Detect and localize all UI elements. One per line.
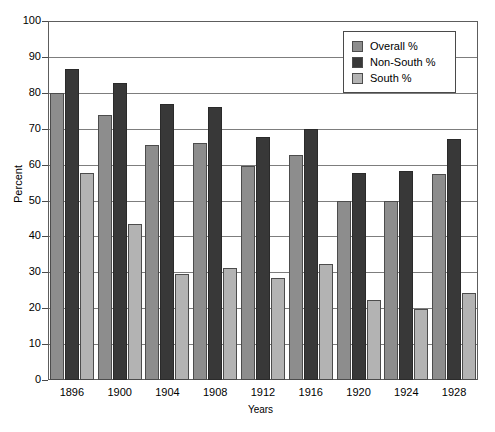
bar [208,107,222,380]
y-axis-label: 60 [3,159,41,170]
bar [256,137,270,380]
bar [50,93,64,380]
bar-group [98,21,142,380]
y-axis-label: 30 [3,266,41,277]
bar-group [193,21,237,380]
legend-swatch-icon [352,73,363,84]
chart-legend: Overall %Non-South %South % [343,31,456,93]
bar [113,83,127,380]
y-axis-label: 100 [3,15,41,26]
y-axis-label: 70 [3,123,41,134]
bar [241,166,255,380]
legend-item: South % [352,70,448,86]
bar [65,69,79,380]
bar [304,129,318,380]
bar [80,173,94,380]
y-axis-tick [42,380,48,381]
legend-item: Overall % [352,38,448,54]
y-axis-label: 90 [3,51,41,62]
legend-label: South % [370,72,412,84]
bar [128,224,142,380]
bar [175,274,189,380]
legend-swatch-icon [352,57,363,68]
bar-group [241,21,285,380]
bar [432,174,446,380]
y-axis-title: Percent [12,144,24,224]
bar [193,143,207,380]
bar-group [145,21,189,380]
legend-label: Overall % [370,40,418,52]
legend-label: Non-South % [370,56,435,68]
bar-chart: Percent 0102030405060708090100 189619001… [0,0,495,432]
y-axis-label: 10 [3,338,41,349]
y-axis-label: 40 [3,230,41,241]
bar [414,309,428,380]
bar [160,104,174,380]
x-axis-label: 1928 [424,386,484,398]
bar [319,264,333,380]
y-axis-label: 50 [3,195,41,206]
bar [98,115,112,380]
bar [289,155,303,380]
y-axis-label: 0 [3,374,41,385]
bar-group [50,21,94,380]
bar [271,278,285,380]
bar [462,293,476,380]
bar [447,139,461,380]
y-axis-label: 80 [3,87,41,98]
bar [223,268,237,380]
y-axis-label: 20 [3,302,41,313]
bar-group [289,21,333,380]
bar [337,201,351,380]
bar [352,173,366,380]
x-axis-title: Years [0,404,495,415]
bar [145,145,159,380]
x-axis-title-text: Years [248,404,273,415]
bar [367,300,381,380]
bar [384,201,398,380]
bar [399,171,413,380]
legend-swatch-icon [352,41,363,52]
legend-item: Non-South % [352,54,448,70]
